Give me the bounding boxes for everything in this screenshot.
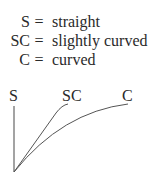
label-curved: C: [122, 87, 133, 104]
curved-line: [14, 104, 128, 172]
label-slightly-curved: SC: [62, 87, 82, 104]
label-straight: S: [9, 87, 18, 104]
curve-diagram: S SC C: [0, 0, 156, 183]
